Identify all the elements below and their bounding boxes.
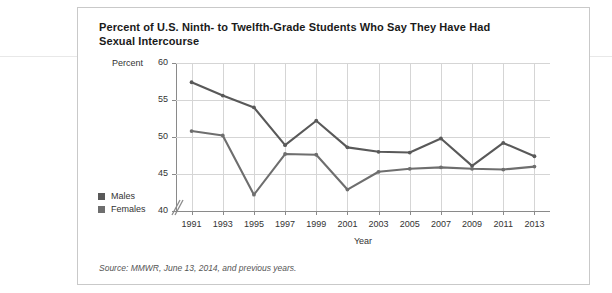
x-tick-label: 2011 (486, 219, 520, 229)
data-point-females (439, 165, 443, 169)
x-tick-mark (410, 211, 411, 215)
data-point-females (470, 167, 474, 171)
data-point-males (501, 141, 505, 145)
x-tick-mark (192, 211, 193, 215)
data-point-females (190, 129, 194, 133)
x-tick-label: 2005 (393, 219, 427, 229)
data-point-males (283, 143, 287, 147)
y-tick-label: 55 (142, 94, 168, 104)
x-tick-label: 2001 (330, 219, 364, 229)
data-point-females (221, 134, 225, 138)
data-point-females (346, 188, 350, 192)
data-point-females (314, 153, 318, 157)
y-axis-title: Percent (112, 58, 143, 68)
series-line-males (192, 82, 535, 166)
data-point-females (377, 170, 381, 174)
data-series-layer (176, 63, 550, 211)
x-tick-label: 1999 (299, 219, 333, 229)
legend-swatch-females (98, 206, 105, 213)
x-tick-label: 1995 (237, 219, 271, 229)
data-point-males (533, 154, 537, 158)
legend-item-females: Females (98, 204, 146, 214)
x-axis-line (176, 211, 550, 212)
data-point-females (283, 152, 287, 156)
data-point-males (221, 94, 225, 98)
y-tick-label: 60 (142, 57, 168, 67)
data-point-males (408, 151, 412, 155)
chart-legend: Males Females (98, 191, 146, 217)
x-axis-title: Year (176, 236, 550, 246)
plot-area: 4045505560 19911993199519971999200120032… (176, 63, 550, 211)
x-tick-label: 2009 (455, 219, 489, 229)
series-line-females (192, 131, 535, 195)
x-tick-label: 1993 (206, 219, 240, 229)
data-point-males (252, 106, 256, 110)
x-tick-label: 1991 (175, 219, 209, 229)
legend-label-males: Males (111, 191, 135, 201)
legend-label-females: Females (111, 204, 146, 214)
x-tick-label: 2007 (424, 219, 458, 229)
x-tick-label: 2013 (517, 219, 551, 229)
data-point-females (533, 165, 537, 169)
x-tick-mark (316, 211, 317, 215)
x-tick-label: 2003 (362, 219, 396, 229)
data-point-females (408, 167, 412, 171)
legend-swatch-males (98, 193, 105, 200)
data-point-males (314, 119, 318, 123)
x-tick-label: 1997 (268, 219, 302, 229)
data-point-females (252, 193, 256, 197)
legend-item-males: Males (98, 191, 146, 201)
x-tick-mark (285, 211, 286, 215)
x-tick-mark (534, 211, 535, 215)
data-point-males (377, 150, 381, 154)
source-note: Source: MMWR, June 13, 2014, and previou… (99, 263, 296, 273)
data-point-males (439, 137, 443, 141)
x-tick-mark (472, 211, 473, 215)
source-text: Source: MMWR, June 13, 2014, and previou… (99, 263, 296, 273)
x-tick-mark (223, 211, 224, 215)
x-tick-mark (503, 211, 504, 215)
x-tick-mark (441, 211, 442, 215)
data-point-males (346, 145, 350, 149)
x-tick-mark (254, 211, 255, 215)
data-point-males (190, 80, 194, 84)
data-point-females (501, 168, 505, 172)
x-tick-mark (347, 211, 348, 215)
x-tick-mark (379, 211, 380, 215)
y-tick-label: 50 (142, 131, 168, 141)
figure-title: Percent of U.S. Ninth- to Twelfth-Grade … (99, 20, 529, 48)
y-tick-label: 45 (142, 168, 168, 178)
figure-container: Percent of U.S. Ninth- to Twelfth-Grade … (77, 7, 590, 285)
